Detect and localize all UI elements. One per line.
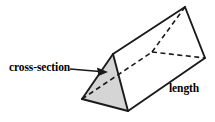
arrow-shaft: [70, 69, 100, 72]
edge-top-ridge: [113, 7, 185, 54]
hidden-edge-back-to-far-apex: [152, 7, 185, 52]
cross-section-label: cross-section: [9, 62, 70, 74]
length-label: length: [169, 83, 199, 95]
hidden-edge-back-to-far-bottomright: [152, 52, 205, 58]
edge-far-right: [185, 7, 205, 58]
triangular-prism-figure: cross-section length: [0, 0, 215, 122]
